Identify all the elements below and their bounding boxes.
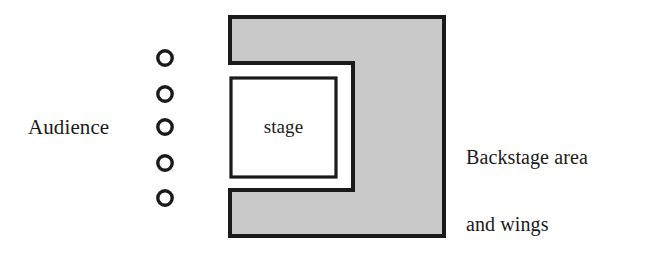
audience-seat-group [158,51,172,205]
backstage-label-line-2: and wings [466,213,588,235]
audience-seat-circle [158,156,172,170]
audience-seat-circle [158,51,172,65]
audience-seat-circle [158,120,172,134]
stage-diagram: Audience stage Backstage area and wings [0,0,667,256]
stage-label: stage [229,116,338,137]
audience-label: Audience [28,116,109,140]
backstage-label: Backstage area and wings [466,101,588,256]
audience-seat-circle [158,191,172,205]
backstage-label-line-1: Backstage area [466,146,588,168]
audience-seat-circle [158,87,172,101]
